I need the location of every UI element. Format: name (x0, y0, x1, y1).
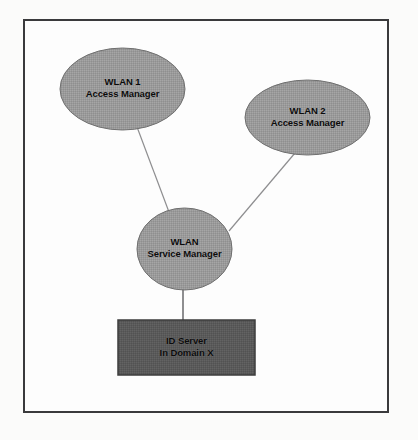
node-shape-wlan2-access-manager[interactable] (245, 80, 370, 155)
connector-wlan2-to-service-manager (229, 153, 295, 231)
node-shape-wlan-service-manager[interactable] (137, 208, 232, 290)
diagram-canvas: WLAN 1 Access Manager WLAN 2 Access Mana… (0, 0, 418, 440)
node-shape-id-server-domain-x[interactable] (118, 320, 255, 375)
connector-wlan1-to-service-manager (137, 127, 169, 212)
node-shape-wlan1-access-manager[interactable] (60, 48, 185, 130)
diagram-shapes-layer (0, 0, 418, 440)
